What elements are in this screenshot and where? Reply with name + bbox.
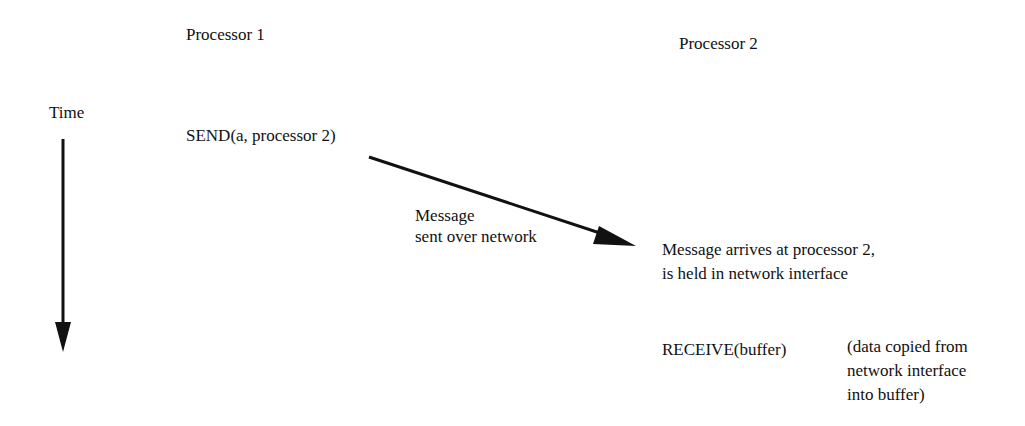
time-arrow (55, 139, 71, 352)
time-label: Time (49, 103, 84, 123)
receive-note-line1: (data copied from (847, 337, 968, 357)
arrival-text-line1: Message arrives at processor 2, (662, 240, 875, 260)
send-call: SEND(a, processor 2) (186, 126, 336, 146)
message-label-line1: Message (415, 206, 474, 226)
processor-2-label: Processor 2 (679, 34, 758, 54)
receive-note-line2: network interface (847, 361, 966, 381)
processor-1-label: Processor 1 (186, 25, 265, 45)
receive-note-line3: into buffer) (847, 385, 925, 405)
receive-call: RECEIVE(buffer) (662, 340, 786, 360)
arrival-text-line2: is held in network interface (662, 264, 848, 284)
message-label-line2: sent over network (415, 227, 537, 247)
